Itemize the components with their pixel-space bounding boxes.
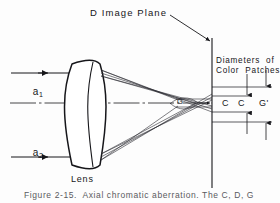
side-label-line1: Diameters of [216, 56, 274, 66]
lens-element [65, 60, 107, 169]
image-plane-title: D Image Plane [90, 7, 167, 18]
lens-label: Lens [71, 174, 94, 185]
ray-label-a1-sub: 1 [39, 91, 43, 98]
ray-label-a2-letter: a [33, 147, 39, 158]
figure-caption-clip: Figure 2-15. Axial chromatic aberration.… [0, 191, 280, 203]
patch-label-g-prime: G' [259, 98, 269, 109]
patch-label-c2: C [238, 98, 245, 109]
title-leader-arrow [170, 15, 210, 41]
patch-extension-c [212, 96, 252, 112]
ray-label-a1-letter: a [33, 86, 39, 97]
figure-caption: Figure 2-15. Axial chromatic aberration.… [24, 191, 254, 200]
patch-label-c1: C [222, 98, 229, 109]
refracted-bundle-bottom [101, 94, 212, 160]
side-label-line2: Color Patches [216, 66, 280, 76]
ray-label-a1: a1 [20, 74, 43, 109]
ray-label-a2-sub: 2 [39, 152, 43, 159]
focus-label-g: G [177, 98, 183, 107]
ray-label-a2: a2 [20, 135, 43, 170]
figure-chromatic-aberration: D Image Plane Diameters of Color Patches… [0, 0, 280, 203]
